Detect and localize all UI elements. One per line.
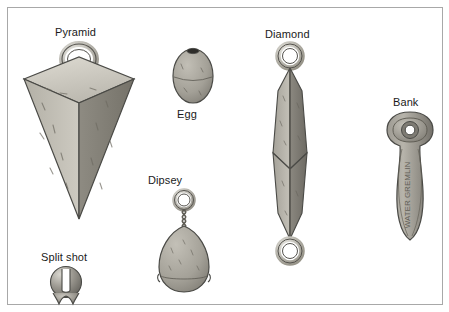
bank-body: WATER GREMLIN	[387, 112, 433, 240]
sinker-bank: WATER GREMLIN	[384, 109, 436, 244]
label-dipsey: Dipsey	[148, 174, 182, 186]
dipsey-body	[159, 226, 209, 292]
sinker-types-figure: Pyramid Egg	[0, 0, 449, 312]
sinker-dipsey	[145, 188, 223, 298]
egg-body	[173, 49, 213, 103]
split-shot-slot	[62, 269, 70, 292]
label-diamond: Diamond	[265, 28, 310, 40]
label-split-shot: Split shot	[41, 251, 87, 263]
figure-border: Pyramid Egg	[7, 7, 443, 305]
dipsey-eye-ring	[175, 191, 194, 210]
bank-eye-hole	[405, 125, 415, 135]
sinker-diamond	[264, 41, 316, 266]
egg-line-hole	[187, 48, 199, 53]
sinker-egg	[168, 44, 218, 106]
split-shot-wings	[53, 293, 79, 304]
label-pyramid: Pyramid	[55, 26, 96, 38]
dipsey-twisted-wire	[182, 210, 185, 228]
label-egg: Egg	[177, 108, 197, 120]
split-shot-body	[51, 267, 82, 305]
pyramid-body	[24, 57, 134, 219]
diamond-top-ring	[278, 44, 302, 68]
sinker-split-shot	[41, 263, 91, 305]
sinker-pyramid	[20, 33, 138, 223]
label-bank: Bank	[393, 96, 418, 108]
diamond-bottom-ring	[278, 239, 302, 263]
diamond-body	[273, 68, 307, 239]
bank-engraved-text: WATER GREMLIN	[403, 161, 412, 228]
